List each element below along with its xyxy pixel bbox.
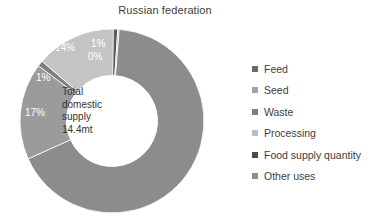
legend-label-seed: Seed <box>264 84 289 96</box>
legend-item-seed[interactable]: Seed <box>252 80 390 102</box>
legend-label-feed: Feed <box>264 63 288 75</box>
donut-plot-area <box>17 26 207 216</box>
legend-label-processing: Processing <box>264 127 316 139</box>
legend-label-other-uses: Other uses <box>264 170 315 182</box>
legend-item-other-uses[interactable]: Other uses <box>252 166 390 188</box>
legend-label-waste: Waste <box>264 106 293 118</box>
donut-hole <box>67 76 158 167</box>
legend-swatch-processing <box>252 130 258 136</box>
legend-item-feed[interactable]: Feed <box>252 58 390 80</box>
legend-swatch-feed <box>252 66 258 72</box>
legend-item-processing[interactable]: Processing <box>252 123 390 145</box>
donut-svg <box>17 26 207 216</box>
chart-container: Russian federation Total domestic supply… <box>0 0 392 220</box>
legend-item-waste[interactable]: Waste <box>252 101 390 123</box>
legend-swatch-other-uses <box>252 173 258 179</box>
chart-title: Russian federation <box>0 4 330 17</box>
legend-swatch-seed <box>252 87 258 93</box>
legend-swatch-food-supply-quantity <box>252 152 258 158</box>
legend-item-food-supply-quantity[interactable]: Food supply quantity <box>252 144 390 166</box>
legend-label-food-supply-quantity: Food supply quantity <box>264 149 361 161</box>
chart-legend: FeedSeedWasteProcessingFood supply quant… <box>252 58 390 187</box>
legend-swatch-waste <box>252 109 258 115</box>
